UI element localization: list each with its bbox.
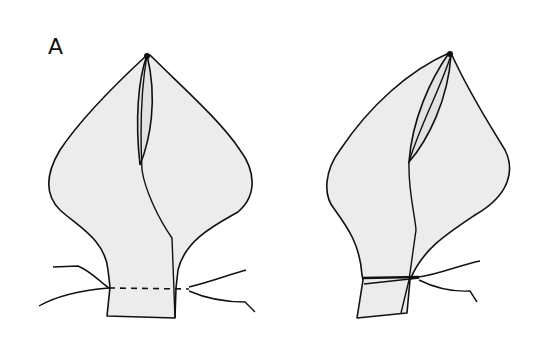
left-bag-tip <box>144 53 150 59</box>
right-string-lower <box>419 280 477 302</box>
right-string-upper <box>419 261 480 277</box>
left-string-lower-right <box>189 291 255 312</box>
right-bag-drawing <box>327 51 510 318</box>
left-string-upper-left <box>53 266 109 288</box>
right-bag-tip <box>447 51 453 57</box>
figure-canvas <box>0 0 537 353</box>
left-string-lower-left <box>39 288 109 306</box>
right-tie-band <box>363 277 419 278</box>
left-string-upper-right <box>189 270 246 287</box>
left-bag-drawing <box>39 53 255 318</box>
